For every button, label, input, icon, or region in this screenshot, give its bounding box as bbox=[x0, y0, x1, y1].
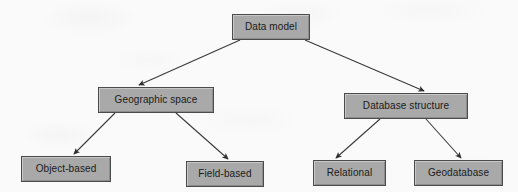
node-label-data-model: Data model bbox=[245, 22, 297, 32]
edge-geographic-space-object-based bbox=[74, 113, 115, 154]
edge-geographic-space-field-based bbox=[176, 113, 228, 159]
node-object-based[interactable]: Object-based bbox=[21, 156, 111, 182]
node-label-relational: Relational bbox=[327, 168, 372, 178]
node-geodatabase[interactable]: Geodatabase bbox=[414, 160, 503, 186]
node-data-model[interactable]: Data model bbox=[232, 14, 310, 40]
node-geographic-space[interactable]: Geographic space bbox=[98, 87, 214, 113]
node-label-object-based: Object-based bbox=[36, 164, 97, 174]
node-label-field-based: Field-based bbox=[198, 169, 251, 179]
edge-data-model-database-structure bbox=[305, 40, 424, 91]
node-label-geographic-space: Geographic space bbox=[115, 95, 198, 105]
edge-data-model-geographic-space bbox=[139, 40, 240, 85]
data-model-hierarchy-diagram: Data model Geographic space Database str… bbox=[0, 0, 518, 192]
node-field-based[interactable]: Field-based bbox=[186, 161, 264, 187]
edge-database-structure-relational bbox=[336, 119, 380, 158]
node-label-geodatabase: Geodatabase bbox=[428, 168, 489, 178]
node-label-database-structure: Database structure bbox=[363, 101, 449, 111]
edge-database-structure-geodatabase bbox=[426, 119, 461, 158]
node-database-structure[interactable]: Database structure bbox=[344, 93, 468, 119]
node-relational[interactable]: Relational bbox=[313, 160, 386, 186]
